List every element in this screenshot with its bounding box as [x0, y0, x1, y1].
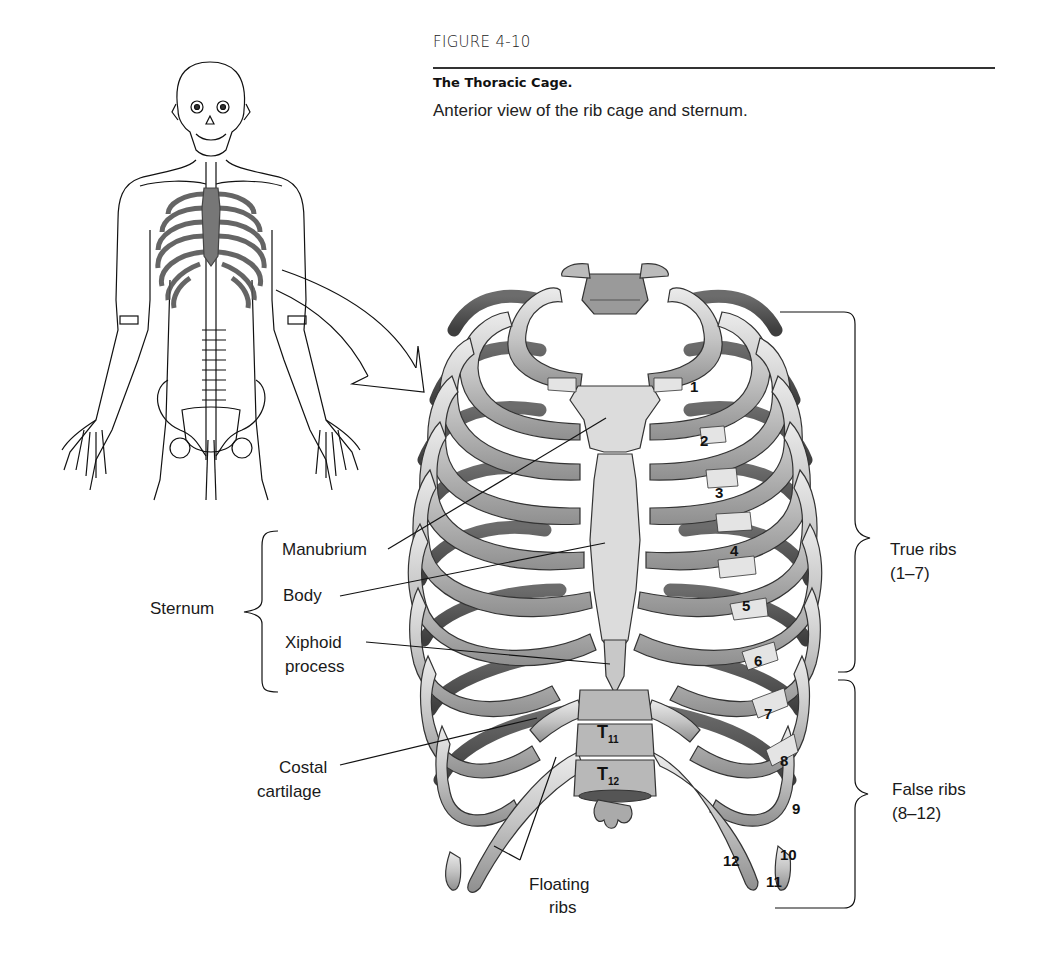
rib-number-1: 1 [690, 378, 698, 395]
label-true-ribs-line2: (1–7) [890, 563, 930, 584]
rib-number-5: 5 [742, 597, 750, 614]
label-manubrium: Manubrium [282, 539, 367, 560]
rib-number-8: 8 [780, 752, 788, 769]
vertebra-t12-subscript: 12 [608, 776, 619, 787]
label-floating-line1: Floating [529, 874, 589, 895]
label-true-ribs-line1: True ribs [890, 539, 956, 560]
label-false-ribs-line2: (8–12) [892, 803, 941, 824]
rib-number-7: 7 [764, 705, 772, 722]
label-false-ribs-line1: False ribs [892, 779, 966, 800]
rib-cage-drawing [408, 264, 821, 892]
label-costal-line2: cartilage [257, 781, 321, 802]
rib-number-4: 4 [730, 542, 738, 559]
label-xiphoid-line1: Xiphoid [285, 632, 342, 653]
rib-number-3: 3 [715, 484, 723, 501]
vertebra-t12: T12 [597, 764, 619, 787]
vertebra-t11-subscript: 11 [608, 734, 619, 745]
label-costal-line1: Costal [279, 757, 327, 778]
thoracic-cage-illustration [0, 0, 1039, 967]
label-sternum: Sternum [150, 598, 214, 619]
label-xiphoid-line2: process [285, 656, 345, 677]
rib-number-9: 9 [792, 800, 800, 817]
rib-number-6: 6 [754, 652, 762, 669]
label-floating-line2: ribs [549, 897, 576, 918]
rib-number-12: 12 [723, 852, 740, 869]
vertebra-t11-letter: T [597, 722, 608, 742]
vertebra-t11: T11 [597, 722, 619, 745]
rib-number-11: 11 [766, 873, 782, 890]
rib-number-10: 10 [780, 846, 797, 863]
rib-number-2: 2 [700, 432, 708, 449]
vertebrae-t11-t12 [574, 690, 656, 828]
label-body: Body [283, 585, 322, 606]
skeleton-overview-icon [62, 62, 424, 500]
sternum-brace [244, 531, 278, 692]
vertebra-t12-letter: T [597, 764, 608, 784]
